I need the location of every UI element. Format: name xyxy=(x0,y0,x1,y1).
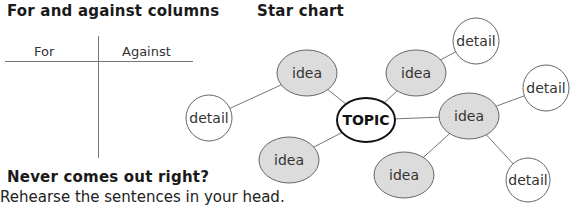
tip-text: Rehearse the sentences in your head. xyxy=(0,188,285,206)
svg-text:detail: detail xyxy=(456,33,495,49)
detail-node: detail xyxy=(506,158,550,202)
idea-node: idea xyxy=(374,152,434,198)
svg-text:detail: detail xyxy=(526,80,565,96)
detail-node: detail xyxy=(186,95,232,141)
tip-heading: Never comes out right? xyxy=(7,168,209,186)
detail-node: detail xyxy=(523,65,569,111)
svg-text:idea: idea xyxy=(292,65,322,81)
svg-text:idea: idea xyxy=(401,65,431,81)
idea-node: idea xyxy=(386,50,446,96)
svg-text:idea: idea xyxy=(454,108,484,124)
idea-node: idea xyxy=(277,50,337,96)
idea-node: idea xyxy=(259,137,319,183)
svg-text:detail: detail xyxy=(189,110,228,126)
svg-text:idea: idea xyxy=(389,167,419,183)
detail-node: detail xyxy=(453,18,499,64)
idea-node: idea xyxy=(439,93,499,139)
svg-text:detail: detail xyxy=(508,172,547,188)
svg-text:TOPIC: TOPIC xyxy=(342,112,389,128)
svg-text:idea: idea xyxy=(274,152,304,168)
topic-node: TOPIC xyxy=(337,98,395,142)
